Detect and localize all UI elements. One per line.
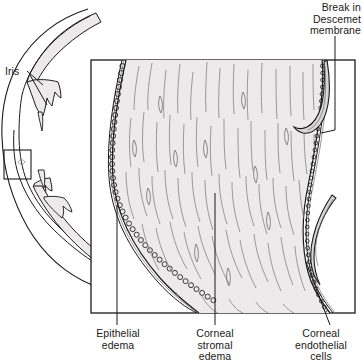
iris-upper-spur [38, 112, 43, 131]
label-corneal-endothelial-cells: Corneal endothelial cells [279, 328, 363, 362]
cornea-band-upper [27, 13, 101, 88]
label-epithelial-edema: Epithelial edema [74, 328, 162, 351]
eye-cross-section [2, 9, 104, 285]
label-corneal-stromal-edema: Corneal stromal edema [176, 328, 254, 362]
magnified-cornea-panel [91, 60, 355, 314]
label-break-in-descemet-membrane: Break in Descemet membrane [310, 2, 361, 37]
iris-upper-leaflet [27, 80, 61, 116]
diagram-canvas [0, 0, 363, 362]
magnification-callout-box [4, 150, 31, 179]
label-iris: Iris [5, 66, 19, 78]
eye-cornea-figure: Break in Descemet membrane Iris Epitheli… [0, 0, 363, 362]
